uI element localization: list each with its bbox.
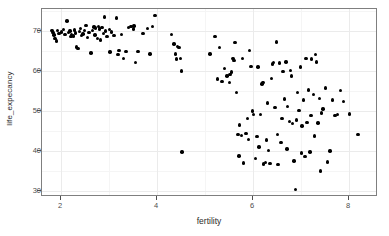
scatter-point (120, 33, 123, 36)
scatter-point (213, 35, 216, 38)
scatter-point (122, 57, 125, 60)
scatter-point (179, 57, 182, 60)
scatter-point (255, 135, 258, 138)
scatter-point (208, 52, 211, 55)
scatter-point (303, 155, 306, 158)
scatter-point (110, 30, 113, 33)
scatter-point (318, 97, 321, 100)
scatter-point (316, 121, 319, 124)
scatter-point (261, 81, 264, 84)
scatter-point (116, 53, 119, 56)
scatter-point (267, 149, 270, 152)
scatter-point (180, 69, 183, 72)
scatter-point (295, 118, 298, 121)
scatter-point (146, 27, 149, 30)
scatter-point (312, 93, 315, 96)
scatter-point (310, 57, 313, 60)
x-axis-title: fertility (41, 216, 377, 226)
scatter-point (291, 122, 294, 125)
scatter-point (254, 157, 257, 160)
scatter-point (315, 60, 318, 63)
scatter-point (136, 50, 139, 53)
x-axis-tick-label: 8 (336, 201, 360, 210)
scatter-point (268, 162, 271, 165)
scatter-point (237, 154, 240, 157)
scatter-point (256, 65, 259, 68)
scatter-point (356, 133, 359, 136)
scatter-point (89, 51, 92, 54)
scatter-point (279, 141, 282, 144)
scatter-point (232, 59, 235, 62)
scatter-point (105, 35, 108, 38)
scatter-point (272, 61, 275, 64)
scatter-point (247, 138, 250, 141)
scatter-point (141, 32, 144, 35)
scatter-point (220, 80, 223, 83)
scatter-point (174, 52, 177, 55)
scatter-point (249, 65, 252, 68)
scatter-point (290, 74, 293, 77)
scatter-point (132, 24, 135, 27)
scatter-point (79, 27, 82, 30)
scatter-point (252, 113, 255, 116)
scatter-point (273, 106, 276, 109)
scatter-point (348, 112, 351, 115)
scatter-point (233, 41, 236, 44)
x-axis-tick-label: 2 (48, 201, 72, 210)
scatter-point (320, 111, 323, 114)
scatter-point (309, 114, 312, 117)
scatter-point (216, 77, 219, 80)
scatter-point (270, 77, 273, 80)
scatter-point (257, 145, 260, 148)
scatter-point (300, 124, 303, 127)
scatter-point (100, 26, 103, 29)
scatter-point (297, 109, 300, 112)
scatter-point (180, 150, 183, 153)
scatter-point (324, 86, 327, 89)
scatter-point (281, 70, 284, 73)
scatter-point (278, 61, 281, 64)
plot-panel (41, 8, 377, 196)
scatter-point (321, 107, 324, 110)
scatter-point (65, 19, 68, 22)
scatter-point (276, 133, 279, 136)
scatter-point (132, 27, 135, 30)
scatter-point (294, 188, 297, 191)
scatter-point (81, 32, 84, 35)
scatter-point (240, 134, 243, 137)
scatter-point (336, 113, 339, 116)
scatter-point (134, 61, 137, 64)
scatter-point (292, 159, 295, 162)
scatter-point (283, 97, 286, 100)
scatter-point (246, 117, 249, 120)
data-points-layer (42, 9, 376, 195)
scatter-point (302, 98, 305, 101)
scatter-point (305, 121, 308, 124)
x-axis-tick-label: 6 (240, 201, 264, 210)
x-axis-tick-mark (252, 196, 253, 200)
scatter-point (300, 151, 303, 154)
scatter-point (319, 169, 322, 172)
scatter-point (62, 28, 65, 31)
scatter-point (314, 53, 317, 56)
scatter-point (244, 132, 247, 135)
scatter-point (280, 117, 283, 120)
scatter-point (124, 50, 127, 53)
scatter-point (117, 49, 120, 52)
scatter-point (276, 163, 279, 166)
scatter-point (331, 98, 334, 101)
scatter-point (103, 15, 106, 18)
scatter-point (248, 49, 251, 52)
scatter-point (264, 161, 267, 164)
scatter-point (304, 57, 307, 60)
scatter-point (218, 46, 221, 49)
scatter-point (74, 31, 77, 34)
scatter-point (284, 60, 287, 63)
scatter-point (242, 161, 245, 164)
scatter-point (86, 36, 89, 39)
scatter-point (170, 33, 173, 36)
scatter-point (259, 113, 262, 116)
x-axis-tick-mark (348, 196, 349, 200)
scatter-point (76, 47, 79, 50)
scatter-point (148, 52, 151, 55)
